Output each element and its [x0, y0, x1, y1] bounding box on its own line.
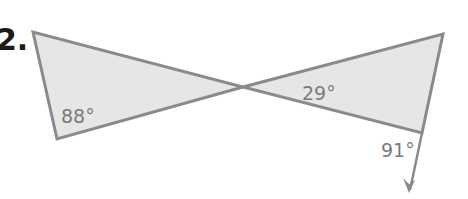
right-triangle [243, 34, 443, 133]
angle-label-29: 29° [302, 82, 336, 104]
angle-label-88: 88° [61, 105, 95, 127]
triangle-diagram: 88° 29° 91° [0, 0, 468, 199]
angle-label-91: 91° [381, 139, 415, 161]
